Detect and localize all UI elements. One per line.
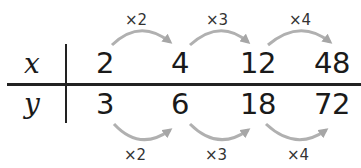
vertical-divider bbox=[65, 44, 67, 123]
x-value: 2 bbox=[96, 46, 114, 80]
arrow-icon bbox=[112, 31, 170, 45]
x-value: 4 bbox=[171, 46, 189, 80]
y-value: 72 bbox=[314, 87, 350, 121]
top-multiplier: ×2 bbox=[125, 11, 147, 29]
bottom-multiplier: ×4 bbox=[287, 146, 309, 164]
bottom-multiplier: ×3 bbox=[205, 146, 227, 164]
top-multiplier: ×4 bbox=[289, 11, 311, 29]
top-multiplier: ×3 bbox=[206, 11, 228, 29]
row-label-y: y bbox=[24, 87, 40, 120]
x-value: 48 bbox=[314, 46, 350, 80]
arrow-icon bbox=[190, 31, 248, 45]
row-label-x: x bbox=[24, 47, 40, 80]
arrow-icon bbox=[114, 124, 170, 140]
bottom-multiplier: ×2 bbox=[124, 146, 146, 164]
arrow-icon bbox=[266, 124, 326, 140]
y-value: 3 bbox=[96, 87, 114, 121]
y-value: 18 bbox=[240, 87, 276, 121]
x-value: 12 bbox=[240, 46, 276, 80]
arrow-icon bbox=[190, 124, 248, 140]
y-value: 6 bbox=[171, 87, 189, 121]
arrow-icon bbox=[268, 31, 330, 45]
horizontal-divider bbox=[7, 83, 361, 86]
